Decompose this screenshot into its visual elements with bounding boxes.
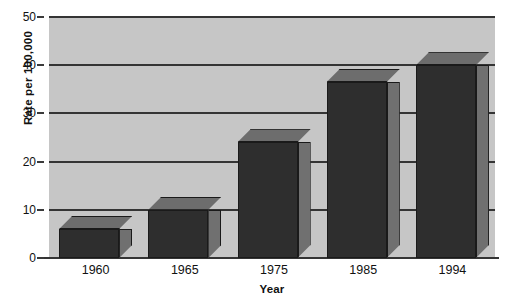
x-tick-label: 1965	[155, 263, 215, 277]
x-tick-label: 1994	[422, 263, 482, 277]
bar-1965	[148, 197, 221, 258]
bar-top-face	[327, 69, 400, 82]
y-tick-mark	[37, 64, 44, 66]
y-tick-mark	[37, 209, 44, 211]
bar-side-face	[387, 82, 400, 258]
bar-front-face	[59, 229, 119, 258]
x-tick-label: 1975	[244, 263, 304, 277]
y-tick-mark	[37, 161, 44, 163]
y-tick-mark	[37, 257, 44, 259]
bar-1975	[238, 129, 311, 258]
bar-front-face	[327, 82, 387, 258]
bar-side-face	[476, 65, 489, 258]
y-tick-mark	[37, 16, 44, 18]
bar-top-face	[416, 52, 489, 65]
y-tick-label: 10	[23, 204, 36, 216]
bar-front-face	[238, 142, 298, 258]
bar-chart-figure: Rate per 100,000 01020304050 19601965197…	[0, 0, 505, 303]
y-tick-label: 20	[23, 156, 36, 168]
bar-1960	[59, 216, 132, 258]
bar-side-face	[119, 229, 132, 258]
bar-front-face	[416, 65, 476, 258]
y-tick-label: 30	[23, 107, 36, 119]
y-axis-tick-labels: 01020304050	[0, 0, 44, 303]
y-tick-label: 0	[29, 252, 36, 264]
y-tick-label: 40	[23, 59, 36, 71]
bar-top-face	[59, 216, 132, 229]
y-tick-mark	[37, 112, 44, 114]
x-axis-tick-labels: 19601965197519851994	[49, 263, 505, 283]
x-tick-label: 1960	[66, 263, 126, 277]
bar-side-face	[208, 210, 221, 258]
x-axis-title: Year	[49, 283, 495, 295]
bar-top-face	[148, 197, 221, 210]
bar-1994	[416, 52, 489, 258]
x-tick-label: 1985	[333, 263, 393, 277]
bar-1985	[327, 69, 400, 258]
bars-layer	[49, 0, 505, 303]
bar-front-face	[148, 210, 208, 258]
y-tick-label: 50	[23, 11, 36, 23]
bar-top-face	[238, 129, 311, 142]
bar-side-face	[298, 142, 311, 258]
